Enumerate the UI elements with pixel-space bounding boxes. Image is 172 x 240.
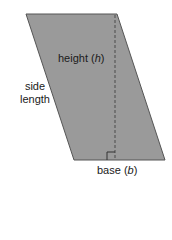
- base-label: base (b): [97, 164, 137, 177]
- side-label-line2: length: [18, 93, 52, 106]
- base-variable: b: [128, 164, 134, 176]
- base-label-text: base: [97, 164, 121, 176]
- height-label: height (h): [58, 52, 105, 65]
- side-length-label: side length: [18, 80, 52, 106]
- height-label-text: height: [58, 52, 88, 64]
- side-label-line1: side: [18, 80, 52, 93]
- height-variable: h: [95, 52, 101, 64]
